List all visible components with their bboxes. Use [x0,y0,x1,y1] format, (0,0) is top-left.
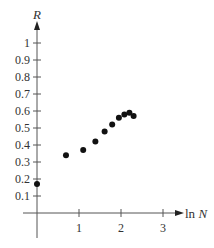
x-tick-label: 1 [76,221,82,235]
y-tick-label: 0.8 [15,70,30,84]
y-tick-label: 0.9 [15,53,30,67]
scatter-chart: 0.10.20.30.40.50.60.70.80.91 123 R ln N [0,0,214,248]
data-point [109,122,115,128]
y-axis-label: R [32,7,41,22]
y-tick-label: 0.2 [15,172,30,186]
y-tick-label: 0.5 [15,121,30,135]
x-axis-arrow-icon [175,210,184,216]
y-tick-label: 0.3 [15,155,30,169]
data-point [102,128,108,134]
x-axis-label: ln N [185,206,208,221]
data-point [116,115,122,121]
y-tick-label: 1 [24,36,30,50]
y-tick-label: 0.1 [15,189,30,203]
data-points [34,110,137,187]
x-tick-label: 2 [118,221,124,235]
data-point [63,152,69,158]
data-point [131,113,137,119]
data-point [34,181,40,187]
data-point [80,147,86,153]
y-tick-label: 0.4 [15,138,30,152]
x-tick-label: 3 [160,221,166,235]
y-axis-arrow-icon [34,21,40,30]
y-tick-label: 0.6 [15,104,30,118]
y-tick-label: 0.7 [15,87,30,101]
data-point [92,139,98,145]
